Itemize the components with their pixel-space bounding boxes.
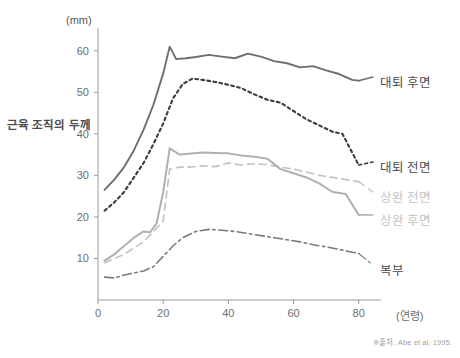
chart-canvas: 102030405060020406080	[0, 0, 460, 358]
tick-group: 102030405060020406080	[77, 45, 365, 319]
series-line-2	[105, 163, 359, 263]
series-line-3	[105, 148, 359, 260]
source-note: ※출처: Abe et al, 1995.	[373, 336, 452, 347]
series-leader-2	[359, 182, 373, 192]
legend-label-2: 상완 전면	[380, 187, 431, 206]
legend-label-3: 상완 후면	[380, 210, 431, 229]
y-axis-unit: (mm)	[66, 14, 92, 26]
series-leader-1	[359, 162, 373, 165]
muscle-thickness-chart: 102030405060020406080 (mm) 근육 조직의 두께 (연령…	[0, 0, 460, 358]
x-tick-label: 40	[222, 307, 234, 319]
series-line-4	[105, 229, 359, 278]
series-line-1	[105, 79, 359, 211]
y-tick-label: 10	[77, 252, 89, 264]
legend-label-4: 복부	[380, 260, 404, 279]
series-line-0	[105, 47, 359, 190]
x-tick-label: 20	[157, 307, 169, 319]
y-tick-label: 30	[77, 169, 89, 181]
series-group	[105, 47, 373, 278]
y-axis-title: 근육 조직의 두께	[6, 118, 92, 133]
y-tick-label: 20	[77, 211, 89, 223]
x-tick-label: 80	[353, 307, 365, 319]
x-axis-title: (연령)	[396, 307, 423, 323]
y-tick-label: 50	[77, 86, 89, 98]
legend-label-0: 대퇴 후면	[380, 72, 431, 91]
x-tick-label: 0	[95, 307, 101, 319]
series-leader-0	[359, 77, 373, 81]
legend-label-1: 대퇴 전면	[380, 157, 431, 176]
series-leader-4	[359, 253, 373, 265]
y-tick-label: 60	[77, 45, 89, 57]
x-tick-label: 60	[287, 307, 299, 319]
